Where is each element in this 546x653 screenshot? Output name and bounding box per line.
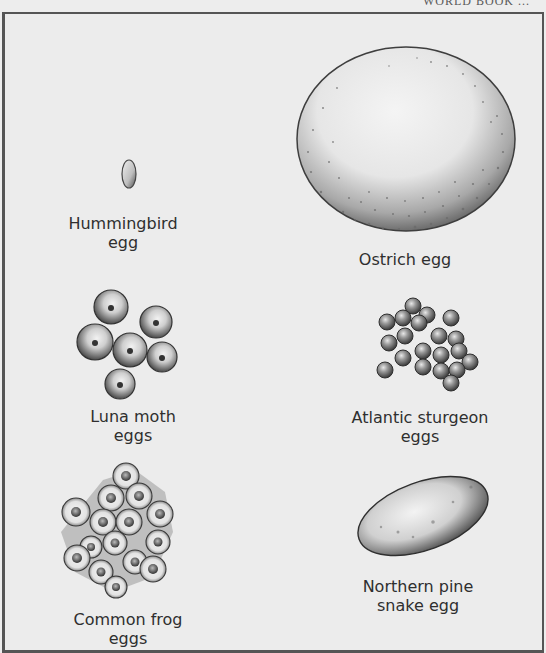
running-header: WORLD BOOK ... bbox=[290, 0, 530, 8]
egg-illustrations bbox=[5, 14, 542, 650]
common-frog-eggs bbox=[61, 463, 173, 598]
atlantic-sturgeon-label: Atlantic sturgeon eggs bbox=[335, 408, 505, 446]
ostrich-egg bbox=[297, 47, 515, 231]
northern-pine-snake-egg bbox=[347, 461, 498, 571]
hummingbird-egg bbox=[122, 160, 136, 188]
luna-moth-eggs bbox=[77, 290, 177, 399]
ostrich-label: Ostrich egg bbox=[335, 250, 475, 269]
common-frog-label: Common frog eggs bbox=[63, 610, 193, 648]
hummingbird-label: Hummingbird egg bbox=[63, 214, 183, 252]
northern-pine-snake-label: Northern pine snake egg bbox=[343, 577, 493, 615]
atlantic-sturgeon-eggs bbox=[377, 298, 478, 391]
luna-moth-label: Luna moth eggs bbox=[73, 407, 193, 445]
egg-comparison-figure: Hummingbird egg Ostrich egg Luna moth eg… bbox=[2, 12, 544, 653]
